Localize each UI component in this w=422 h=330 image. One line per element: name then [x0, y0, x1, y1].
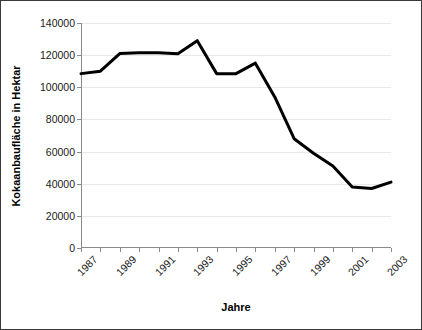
y-tick-label: 80000 [46, 113, 75, 125]
y-tick-label: 100000 [40, 81, 75, 93]
x-tick-mark [333, 248, 334, 252]
chart-figure: Kokaanbaufläche in Hektar 02000040000600… [0, 0, 422, 330]
x-tick-label: 1995 [229, 253, 254, 278]
y-tick-label: 20000 [46, 210, 75, 222]
x-tick-mark [391, 248, 392, 252]
x-tick-label: 1989 [113, 253, 138, 278]
y-axis-tick-labels: 020000400006000080000100000120000140000 [1, 23, 75, 248]
x-axis-tick-labels: 198719891991199319951997199920012003 [81, 253, 391, 295]
x-tick-mark [294, 248, 295, 252]
x-tick-mark [352, 248, 353, 252]
data-series-line [81, 23, 391, 248]
x-tick-label: 2003 [384, 253, 409, 278]
y-tick-label: 0 [69, 242, 75, 254]
y-tick-label: 120000 [40, 49, 75, 61]
plot-area [81, 23, 391, 248]
x-tick-label: 1999 [307, 253, 332, 278]
x-tick-mark [314, 248, 315, 252]
x-tick-mark [100, 248, 101, 252]
x-tick-mark [255, 248, 256, 252]
x-tick-mark [275, 248, 276, 252]
x-tick-mark [139, 248, 140, 252]
x-axis-title: Jahre [81, 301, 391, 313]
x-tick-mark [120, 248, 121, 252]
x-tick-mark [159, 248, 160, 252]
x-tick-mark [217, 248, 218, 252]
x-tick-label: 1991 [152, 253, 177, 278]
y-tick-label: 40000 [46, 178, 75, 190]
y-tick-label: 140000 [40, 17, 75, 29]
x-tick-label: 1997 [268, 253, 293, 278]
x-tick-mark [178, 248, 179, 252]
x-tick-label: 1993 [191, 253, 216, 278]
x-tick-mark [81, 248, 82, 252]
y-tick-label: 60000 [46, 146, 75, 158]
x-tick-label: 2001 [346, 253, 371, 278]
series-polyline [81, 41, 391, 189]
x-tick-mark [197, 248, 198, 252]
x-tick-mark [236, 248, 237, 252]
x-tick-label: 1987 [74, 253, 99, 278]
x-tick-mark [372, 248, 373, 252]
